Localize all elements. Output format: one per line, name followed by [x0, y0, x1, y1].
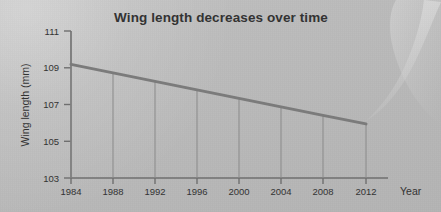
x-tick-label: 1988 [102, 186, 123, 197]
y-axis-ticks [64, 31, 71, 178]
data-series-line [71, 64, 366, 124]
x-axis-title: Year [400, 185, 422, 197]
x-axis-ticks [71, 178, 366, 184]
x-tick-label: 1984 [60, 186, 81, 197]
vertical-gridlines [71, 64, 366, 178]
y-tick-label: 103 [43, 173, 59, 184]
x-tick-label: 1992 [144, 186, 165, 197]
x-tick-label: 2012 [355, 186, 376, 197]
chart-page: Wing length decreases over time 111 109 … [0, 0, 441, 212]
x-axis-tick-labels: 1984 1988 1992 1996 2000 2004 2008 2012 [60, 186, 376, 197]
y-axis-tick-labels: 111 109 107 105 103 [43, 26, 59, 184]
y-tick-label: 105 [43, 136, 59, 147]
y-tick-label: 107 [43, 99, 59, 110]
y-tick-label: 109 [43, 62, 59, 73]
y-tick-label: 111 [45, 26, 59, 37]
x-tick-label: 2000 [228, 186, 249, 197]
x-tick-label: 1996 [186, 186, 207, 197]
y-axis-title: Wing length (mm) [19, 64, 31, 147]
line-chart: Wing length decreases over time 111 109 … [0, 0, 441, 212]
x-tick-label: 2008 [312, 186, 333, 197]
x-tick-label: 2004 [270, 186, 291, 197]
chart-title: Wing length decreases over time [114, 10, 328, 25]
